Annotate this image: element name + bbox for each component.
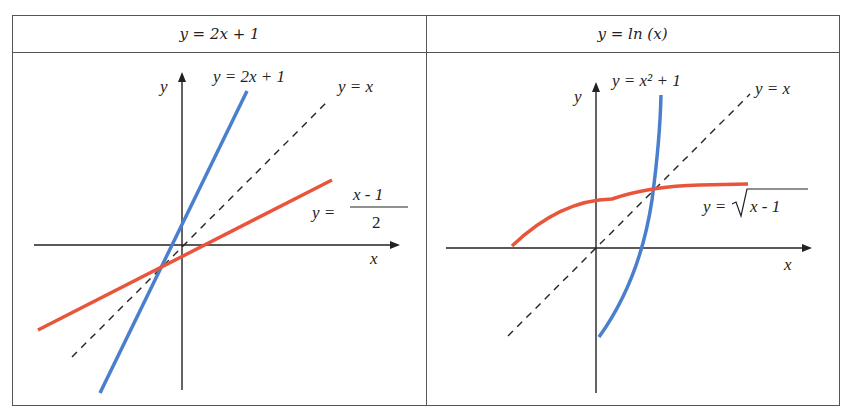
- left-label-fraction-prefix: y =: [310, 203, 335, 222]
- right-y-axis-label: y: [572, 87, 582, 106]
- left-label-fraction-denominator: 2: [372, 213, 381, 232]
- graphs-canvas: y x y = 2x + 1 y = x y = x - 1 2 y x y =…: [0, 0, 852, 417]
- left-x-axis-label: x: [369, 249, 378, 268]
- left-graph: y x y = 2x + 1 y = x y = x - 1 2: [34, 67, 408, 393]
- right-label-sqrt-radicand: x - 1: [749, 197, 780, 216]
- right-curve-x-squared-plus-1: [599, 95, 661, 337]
- right-graph: y x y = x² + 1 y = x y = x - 1: [446, 71, 810, 393]
- left-label-2x-plus-1: y = 2x + 1: [211, 67, 285, 86]
- right-x-axis-label: x: [783, 255, 792, 274]
- left-identity-line: [72, 101, 328, 357]
- left-y-axis-label: y: [158, 77, 168, 96]
- right-label-identity: y = x: [753, 79, 791, 98]
- right-label-x-squared-plus-1: y = x² + 1: [610, 71, 681, 90]
- left-curve-2x-plus-1: [100, 91, 247, 393]
- left-curve-x-minus-1-over-2: [38, 180, 332, 330]
- right-label-sqrt-prefix: y =: [701, 197, 726, 216]
- left-label-identity: y = x: [336, 77, 374, 96]
- left-label-fraction-numerator: x - 1: [352, 185, 383, 204]
